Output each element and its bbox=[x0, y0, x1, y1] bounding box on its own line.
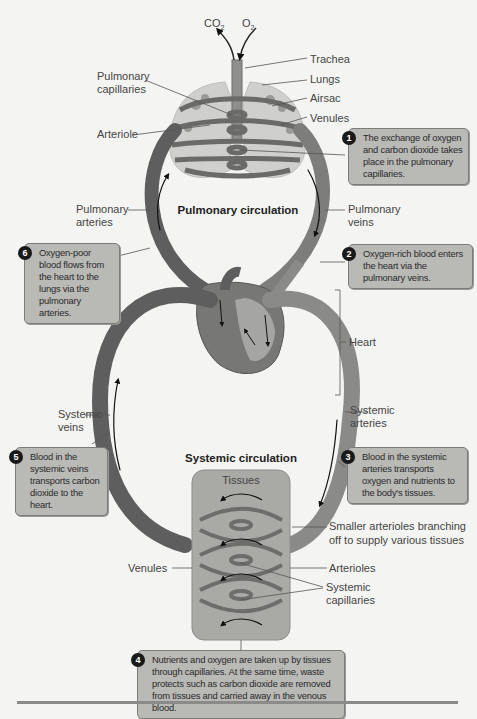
smaller-arterioles-label-1: Smaller arterioles branching bbox=[329, 520, 466, 532]
lungs-label: Lungs bbox=[310, 73, 340, 85]
o2-label: O2 bbox=[242, 17, 255, 31]
systemic-capillaries-label-1: Systemic bbox=[326, 581, 371, 593]
note-2: 2 Oxygen-rich blood enters the heart via… bbox=[348, 244, 473, 289]
step-number-4: 4 bbox=[131, 653, 145, 667]
pulmonary-capillaries-label-2: capillaries bbox=[97, 83, 146, 95]
step-number-5: 5 bbox=[9, 450, 23, 464]
note-1-text: The exchange of oxygen and carbon dioxid… bbox=[363, 132, 462, 179]
systemic-capillaries-label-2: capillaries bbox=[326, 594, 375, 606]
arteriole-label: Arteriole bbox=[97, 128, 138, 140]
note-3: 3 Blood in the systemic arteries transpo… bbox=[347, 447, 468, 504]
bottom-divider bbox=[17, 701, 458, 704]
note-5-text: Blood in the systemic veins transports c… bbox=[30, 451, 100, 510]
venules-bottom-label: Venules bbox=[128, 562, 168, 574]
note-6: 6 Oxygen-poor blood flows from the heart… bbox=[24, 243, 120, 324]
systemic-arteries-label-1: Systemic bbox=[350, 404, 395, 416]
pulmonary-arteries-label-1: Pulmonary bbox=[76, 203, 129, 215]
systemic-circulation-title: Systemic circulation bbox=[185, 452, 297, 464]
step-number-3: 3 bbox=[341, 450, 355, 464]
co2-label: CO2 bbox=[204, 17, 225, 31]
trachea-label: Trachea bbox=[310, 53, 351, 65]
heart-label: Heart bbox=[349, 336, 376, 348]
tissues-box bbox=[192, 470, 290, 640]
step-number-6: 6 bbox=[18, 246, 32, 260]
tissues-label: Tissues bbox=[222, 474, 260, 486]
airsac-label: Airsac bbox=[310, 92, 341, 104]
venules-top-label: Venules bbox=[310, 112, 350, 124]
smaller-arterioles-label-2: off to supply various tissues bbox=[329, 534, 464, 546]
pulmonary-veins-label-2: veins bbox=[348, 216, 374, 228]
note-6-text: Oxygen-poor blood flows from the heart t… bbox=[39, 247, 104, 318]
note-3-text: Blood in the systemic arteries transport… bbox=[362, 451, 455, 498]
heart-illustration bbox=[197, 262, 300, 374]
step-number-2: 2 bbox=[342, 247, 356, 261]
systemic-arteries-label-2: arteries bbox=[350, 417, 387, 429]
systemic-veins-label-1: Systemic bbox=[58, 408, 103, 420]
note-4-text: Nutrients and oxygen are taken up by tis… bbox=[152, 654, 331, 713]
pulmonary-veins-label-1: Pulmonary bbox=[348, 203, 401, 215]
pulmonary-capillaries-label-1: Pulmonary bbox=[97, 70, 150, 82]
note-4: 4 Nutrients and oxygen are taken up by t… bbox=[137, 650, 345, 719]
systemic-veins-label-2: veins bbox=[58, 421, 84, 433]
pulmonary-circulation-title: Pulmonary circulation bbox=[178, 204, 299, 216]
arterioles-label: Arterioles bbox=[329, 562, 376, 574]
pulmonary-arteries-label-2: arteries bbox=[76, 216, 113, 228]
note-1: 1 The exchange of oxygen and carbon diox… bbox=[348, 128, 469, 185]
note-2-text: Oxygen-rich blood enters the heart via t… bbox=[363, 248, 463, 283]
step-number-1: 1 bbox=[342, 131, 356, 145]
note-5: 5 Blood in the systemic veins transports… bbox=[15, 447, 108, 516]
